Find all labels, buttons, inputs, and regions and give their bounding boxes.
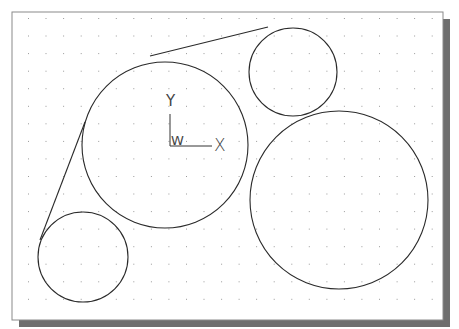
grid-dot [98, 71, 99, 72]
grid-dot [397, 36, 398, 37]
grid-dot [239, 158, 240, 159]
ucs-w-label: W [171, 133, 184, 148]
grid-dot [81, 246, 82, 247]
grid-dot [98, 123, 99, 124]
grid-dot [379, 141, 380, 142]
grid-dot [133, 53, 134, 54]
grid-dot [414, 158, 415, 159]
grid-dot [344, 176, 345, 177]
grid-dot [397, 264, 398, 265]
grid-dot [414, 264, 415, 265]
cad-drawing-canvas[interactable]: X Y W [0, 0, 459, 329]
grid-dot [239, 264, 240, 265]
grid-dot [414, 53, 415, 54]
grid-dot [98, 211, 99, 212]
grid-dot [256, 18, 257, 19]
grid-dot [46, 18, 47, 19]
grid-dot [291, 71, 292, 72]
grid-dot [397, 53, 398, 54]
grid-dot [221, 299, 222, 300]
grid-dot [379, 53, 380, 54]
grid-dot [326, 281, 327, 282]
grid-dot [63, 211, 64, 212]
grid-dot [291, 158, 292, 159]
grid-dot [379, 246, 380, 247]
grid-dot [186, 53, 187, 54]
grid-dot [46, 106, 47, 107]
grid-dot [309, 158, 310, 159]
grid-dot [397, 71, 398, 72]
grid-dot [46, 264, 47, 265]
grid-dot [151, 299, 152, 300]
grid-dot [81, 123, 82, 124]
grid-dot [63, 106, 64, 107]
grid-dot [221, 158, 222, 159]
grid-dot [63, 18, 64, 19]
grid-dot [204, 106, 205, 107]
grid-dot [414, 194, 415, 195]
grid-dot [221, 106, 222, 107]
grid-dot [81, 106, 82, 107]
grid-dot [291, 281, 292, 282]
grid-dot [344, 106, 345, 107]
grid-dot [239, 194, 240, 195]
grid-dot [274, 141, 275, 142]
grid-dot [397, 106, 398, 107]
grid-dot [291, 88, 292, 89]
ucs-y-label: Y [165, 92, 176, 110]
grid-dot [28, 53, 29, 54]
grid-dot [46, 53, 47, 54]
grid-dot [397, 299, 398, 300]
grid-dot [291, 53, 292, 54]
grid-dot [274, 123, 275, 124]
grid-dot [28, 123, 29, 124]
grid-dot [414, 141, 415, 142]
grid-dot [204, 211, 205, 212]
grid-dot [379, 229, 380, 230]
grid-dot [432, 141, 433, 142]
grid-dot [28, 71, 29, 72]
grid-dot [256, 176, 257, 177]
grid-dot [432, 229, 433, 230]
grid-dot [204, 36, 205, 37]
grid-dot [361, 18, 362, 19]
grid-dot [256, 36, 257, 37]
grid-dot [204, 88, 205, 89]
grid-dot [98, 18, 99, 19]
grid-dot [239, 18, 240, 19]
grid-dot [432, 123, 433, 124]
grid-dot [186, 176, 187, 177]
grid-dot [221, 123, 222, 124]
grid-dot [397, 194, 398, 195]
grid-dot [186, 36, 187, 37]
grid-dot [186, 229, 187, 230]
grid-dot [63, 229, 64, 230]
grid-dot [397, 229, 398, 230]
grid-dot [239, 229, 240, 230]
grid-dot [133, 229, 134, 230]
grid-dot [274, 36, 275, 37]
grid-dot [309, 53, 310, 54]
grid-dot [98, 141, 99, 142]
grid-dot [63, 141, 64, 142]
grid-dot [204, 141, 205, 142]
grid-dot [221, 88, 222, 89]
grid-dot [63, 246, 64, 247]
grid-dot [361, 158, 362, 159]
grid-dot [344, 71, 345, 72]
grid-dot [344, 141, 345, 142]
grid-dot [28, 194, 29, 195]
grid-dot [361, 106, 362, 107]
grid-dot [326, 158, 327, 159]
grid-dot [414, 88, 415, 89]
grid-dot [133, 106, 134, 107]
grid-dot [221, 281, 222, 282]
grid-dot [133, 176, 134, 177]
grid-dot [326, 264, 327, 265]
grid-dot [397, 211, 398, 212]
grid-dot [151, 71, 152, 72]
grid-dot [151, 281, 152, 282]
grid-dot [221, 264, 222, 265]
grid-dot [116, 88, 117, 89]
grid-dot [432, 246, 433, 247]
